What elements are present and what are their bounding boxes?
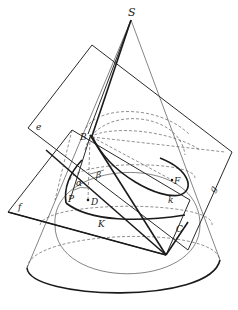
label-e: e [36, 122, 41, 132]
label-alpha: α [76, 178, 82, 188]
generator-S-B-2 [92, 20, 131, 136]
cone-base-front [27, 260, 220, 293]
label-D: D [90, 197, 98, 207]
label-C: C [176, 224, 183, 234]
cone-planes-diagram: S e f B α β P D F k K C g [0, 0, 238, 310]
point-F-dot [171, 179, 174, 182]
label-F: F [173, 176, 181, 186]
label-P: P [67, 194, 75, 204]
dash-upper-arc [86, 112, 190, 135]
dash-P-B [70, 137, 90, 200]
label-K: K [97, 219, 106, 229]
label-k: k [168, 195, 173, 205]
cone-base-back [27, 236, 220, 268]
label-f: f [17, 202, 23, 212]
point-B-dot [90, 135, 93, 138]
dash-B-right [92, 137, 225, 152]
point-D-dot [87, 199, 90, 202]
label-beta: β [95, 170, 101, 180]
label-B: B [79, 132, 87, 142]
label-S: S [128, 6, 136, 19]
dash-B-D [88, 137, 90, 200]
